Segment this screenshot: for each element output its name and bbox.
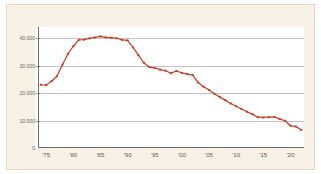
data-point-marker [72,45,74,47]
data-point-marker [154,67,156,69]
y-tick-label-4: 40.000 [19,35,35,41]
data-point-marker [197,82,199,84]
chart-svg [36,27,304,148]
data-point-marker [165,70,167,72]
x-tick-label-3: '90 [116,151,140,158]
data-point-marker [230,102,232,104]
data-point-marker [192,74,194,76]
data-point-marker [83,39,85,41]
data-point-marker [246,111,248,113]
data-point-marker [262,116,264,118]
data-point-marker [203,86,205,88]
data-point-marker [284,120,286,122]
data-point-marker [295,126,297,128]
data-point-marker [61,64,63,66]
x-tick-label-6: '05 [197,151,221,158]
data-point-marker [268,116,270,118]
chart-screenshot: 010.00020.00030.00040.000 '75'80'85'90'9… [0,0,321,174]
data-point-marker [257,116,259,118]
gridlines [38,39,304,122]
x-tick-label-8: '15 [251,151,275,158]
x-tick-label-5: '00 [170,151,194,158]
data-series [40,35,303,131]
chart-card: 010.00020.00030.00040.000 '75'80'85'90'9… [6,4,315,170]
data-point-marker [94,36,96,38]
data-point-marker [137,54,139,56]
data-point-marker [78,39,80,41]
x-tick-label-2: '85 [88,151,112,158]
data-point-marker [45,84,47,86]
data-point-marker [235,105,237,107]
x-tick-label-7: '10 [224,151,248,158]
data-point-marker [219,96,221,98]
x-tick-label-0: '75 [34,151,58,158]
data-point-marker [148,66,150,68]
data-point-marker [121,39,123,41]
y-tick-label-1: 10.000 [19,118,35,124]
data-point-marker [213,93,215,95]
data-point-marker [67,53,69,55]
data-point-marker [116,37,118,39]
y-tick-label-2: 20.000 [19,90,35,96]
data-point-marker [300,129,302,131]
y-tick-label-3: 30.000 [19,63,35,69]
data-point-marker [170,72,172,74]
data-point-marker [224,99,226,101]
data-point-marker [56,75,58,77]
plot-area: 010.00020.00030.00040.000 '75'80'85'90'9… [36,27,304,148]
data-point-marker [181,72,183,74]
x-tick-label-9: '20 [278,151,302,158]
x-tick-label-1: '80 [61,151,85,158]
data-point-marker [175,70,177,72]
data-point-marker [40,84,42,86]
data-point-marker [208,89,210,91]
data-point-marker [273,116,275,118]
data-point-marker [159,69,161,71]
axes [36,27,304,148]
x-tick-label-4: '95 [143,151,167,158]
data-point-marker [279,118,281,120]
data-point-marker [127,39,129,41]
data-point-marker [241,108,243,110]
data-point-marker [251,113,253,115]
data-point-marker [51,80,53,82]
series-line-0 [41,36,302,130]
data-point-marker [143,62,145,64]
data-point-marker [89,37,91,39]
data-point-marker [105,36,107,38]
data-point-marker [110,37,112,39]
data-point-marker [99,35,101,37]
data-point-marker [186,73,188,75]
data-point-marker [132,46,134,48]
data-point-marker [289,125,291,127]
